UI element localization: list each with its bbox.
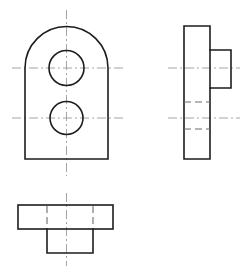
front-view [12, 10, 124, 176]
drawing-sheet [0, 0, 247, 272]
right-side-view-outline [184, 26, 231, 159]
right-side-view [168, 26, 240, 159]
technical-drawing-canvas [0, 0, 247, 272]
bottom-view-boss-outline [47, 229, 93, 253]
bottom-view [18, 193, 113, 266]
bottom-view-plate-outline [18, 205, 113, 229]
